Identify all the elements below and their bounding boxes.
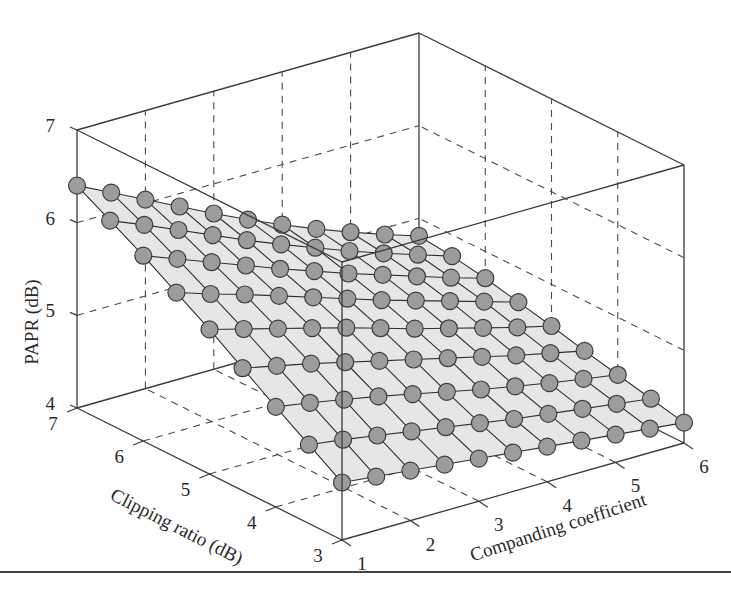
x-tick-label: 2 [426, 534, 436, 555]
z-tick-label: 7 [46, 115, 56, 136]
data-point-marker [444, 248, 461, 265]
data-point-marker [273, 236, 290, 253]
z-tick-label: 4 [46, 393, 56, 414]
box-edge-top-back [77, 33, 419, 130]
x-tick-label: 3 [494, 514, 504, 535]
data-point-marker [542, 345, 559, 362]
data-point-marker [300, 436, 317, 453]
data-point-marker [437, 419, 454, 436]
data-point-marker [368, 468, 385, 485]
data-point-marker [540, 405, 557, 422]
data-point-marker [407, 292, 424, 309]
data-point-marker [576, 342, 593, 359]
data-point-marker [442, 293, 459, 310]
surface-mesh [69, 177, 693, 491]
data-point-marker [476, 293, 493, 310]
data-point-marker [642, 390, 659, 407]
data-point-marker [335, 431, 352, 448]
y-tick-label: 7 [48, 413, 58, 434]
data-point-marker [301, 394, 318, 411]
data-point-marker [370, 388, 387, 405]
z-tick [70, 220, 77, 223]
z-tick [70, 127, 77, 130]
data-point-marker [369, 427, 386, 444]
data-point-marker [304, 320, 321, 337]
data-point-marker [510, 294, 527, 311]
data-point-marker [202, 286, 219, 303]
data-point-marker [235, 321, 252, 338]
data-point-marker [608, 395, 625, 412]
x-tick [547, 482, 556, 488]
data-point-marker [337, 354, 354, 371]
data-point-marker [439, 350, 456, 367]
data-point-marker [404, 386, 421, 403]
data-point-marker [336, 391, 353, 408]
x-tick [342, 540, 351, 546]
data-point-marker [240, 211, 257, 228]
data-point-marker [543, 318, 560, 335]
data-point-marker [170, 222, 187, 239]
data-point-marker [470, 450, 487, 467]
y-tick-label: 6 [115, 446, 125, 467]
y-tick [266, 507, 276, 511]
data-point-marker [102, 212, 119, 229]
box-edge-top-front [342, 165, 684, 262]
data-point-marker [307, 239, 324, 256]
data-point-marker [376, 226, 393, 243]
z-tick-label: 5 [46, 300, 56, 321]
data-point-marker [338, 319, 355, 336]
y-tick [133, 441, 143, 445]
y-tick-label: 4 [247, 512, 257, 533]
y-tick-label: 3 [313, 545, 323, 566]
data-point-marker [403, 423, 420, 440]
x-tick-label: 6 [699, 456, 709, 477]
data-point-marker [272, 260, 289, 277]
data-point-marker [506, 411, 523, 428]
papr-surface-chart: 456734567123456 PAPR (dB) Clipping ratio… [0, 0, 731, 589]
data-point-marker [171, 198, 188, 215]
data-point-marker [541, 375, 558, 392]
data-point-marker [306, 263, 323, 280]
data-point-marker [573, 432, 590, 449]
data-point-marker [436, 456, 453, 473]
data-point-marker [203, 254, 220, 271]
y-tick [67, 408, 77, 412]
data-point-marker [137, 191, 154, 208]
data-point-marker [236, 286, 253, 303]
data-point-marker [305, 289, 322, 306]
data-point-marker [201, 321, 218, 338]
data-point-marker [438, 383, 455, 400]
data-point-marker [609, 366, 626, 383]
data-point-marker [607, 426, 624, 443]
data-point-marker [440, 320, 457, 337]
data-point-marker [303, 355, 320, 372]
data-point-marker [169, 250, 186, 267]
data-point-marker [406, 320, 423, 337]
x-tick [479, 501, 488, 507]
data-point-marker [269, 320, 286, 337]
data-point-marker [372, 320, 389, 337]
data-point-marker [473, 381, 490, 398]
data-point-marker [676, 414, 693, 431]
data-point-marker [539, 438, 556, 455]
data-point-marker [234, 360, 251, 377]
data-point-marker [508, 347, 525, 364]
data-point-marker [103, 184, 120, 201]
y-tick [332, 540, 342, 544]
data-point-marker [135, 247, 152, 264]
data-point-marker [371, 352, 388, 369]
data-point-marker [402, 462, 419, 479]
x-tick [684, 443, 693, 449]
data-point-marker [509, 319, 526, 336]
data-point-marker [375, 245, 392, 262]
z-tick [70, 405, 77, 408]
data-point-marker [475, 319, 492, 336]
data-point-marker [238, 232, 255, 249]
data-point-marker [268, 357, 285, 374]
data-point-marker [168, 284, 185, 301]
data-point-marker [267, 398, 284, 415]
data-point-marker [505, 444, 522, 461]
data-point-marker [205, 205, 222, 222]
data-point-marker [574, 400, 591, 417]
data-point-marker [341, 243, 358, 260]
